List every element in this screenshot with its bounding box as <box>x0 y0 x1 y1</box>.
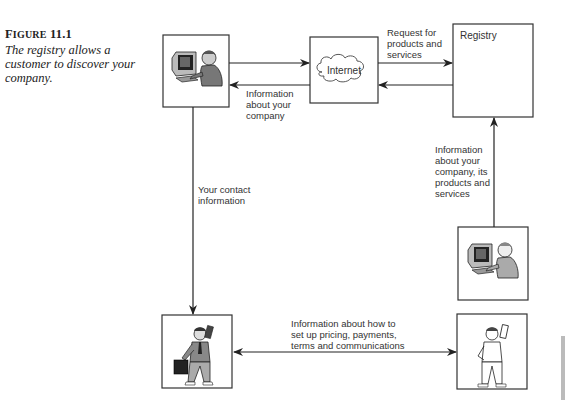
edge-label-contact-info: Your contact information <box>198 184 250 206</box>
edge-label-info-about-company: Information about your company <box>246 88 294 121</box>
diagram-canvas <box>0 0 565 404</box>
internet-label: Internet <box>327 65 361 76</box>
registry-label: Registry <box>460 30 497 41</box>
edge-label-publish-info: Information about your company, its prod… <box>435 144 490 199</box>
edge-label-setup-info: Information about how to set up pricing,… <box>291 318 405 351</box>
page-side-tab <box>561 336 565 400</box>
company-computer-box <box>458 227 528 300</box>
edge-label-request: Request for products and services <box>387 27 442 60</box>
